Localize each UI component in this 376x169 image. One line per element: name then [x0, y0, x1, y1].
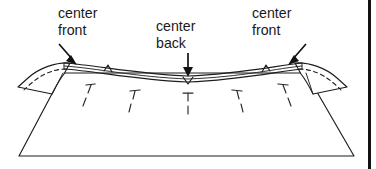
center-front-left-line2: front	[58, 22, 86, 38]
label-center-front-right: center front	[252, 5, 306, 65]
center-back-line1: center	[156, 18, 196, 34]
label-center-back: center back	[156, 18, 196, 77]
center-front-left-line1: center	[58, 5, 98, 21]
center-front-right-line1: center	[252, 5, 292, 21]
diagram-canvas: center front center back center front	[0, 0, 376, 169]
waistband-diagram-figure: center front center back center front	[0, 0, 376, 169]
center-back-line2: back	[156, 35, 187, 51]
skirt-body-outline	[19, 73, 354, 156]
skirt-body-group	[19, 73, 354, 156]
label-center-front-left: center front	[58, 5, 98, 65]
center-front-right-line2: front	[252, 22, 280, 38]
page-border-rule	[368, 0, 371, 169]
